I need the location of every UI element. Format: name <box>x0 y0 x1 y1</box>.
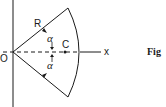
sector-diagram: R α α C O x Fig <box>0 0 166 107</box>
angle-arrowhead-top-lower <box>50 47 54 50</box>
angle-label-top: α <box>47 32 53 44</box>
x-axis-label: x <box>104 46 109 57</box>
angle-label-bottom: α <box>47 59 53 71</box>
angle-arrowhead-bottom-upper <box>50 54 54 57</box>
centroid-point <box>64 51 67 54</box>
radius-label: R <box>34 18 41 29</box>
figure-caption: Fig <box>147 46 161 57</box>
sector-upper-radius <box>13 8 68 52</box>
origin-label: O <box>0 53 8 64</box>
centroid-label: C <box>62 39 69 50</box>
sector-lower-radius <box>13 52 68 97</box>
